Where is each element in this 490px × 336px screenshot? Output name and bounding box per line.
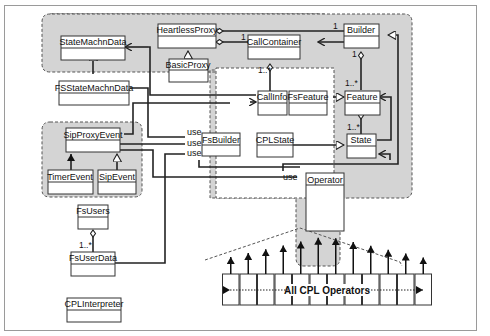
class-name: TimerEvent	[47, 172, 93, 182]
class-name: HeartlessProxy	[156, 25, 218, 35]
uml-class-diagram: StateMachnData HeartlessProxy BasicProxy…	[0, 0, 490, 336]
multiplicity-label: 1..*	[258, 65, 271, 75]
class-sip-event[interactable]: SipEvent	[98, 170, 136, 194]
class-sip-proxy-event[interactable]: SipProxyEvent	[63, 128, 123, 152]
class-fs-feature[interactable]: FsFeature	[287, 91, 328, 115]
operator-instance-box	[380, 274, 397, 305]
multiplicity-label: 1..*	[79, 240, 92, 250]
class-name: FsFeature	[287, 92, 328, 102]
class-basic-proxy[interactable]: BasicProxy	[165, 59, 211, 82]
class-name: FsUsers	[76, 206, 110, 216]
multiplicity-label: 1..*	[347, 122, 360, 132]
class-name: CallInfo	[257, 92, 288, 102]
class-timer-event[interactable]: TimerEvent	[47, 170, 93, 194]
operator-instance-box	[258, 274, 275, 305]
class-name: State	[350, 135, 371, 145]
class-operator[interactable]: Operator	[306, 173, 344, 231]
class-fs-user-data[interactable]: FsUserData	[69, 252, 117, 276]
class-name: BasicProxy	[165, 60, 211, 70]
class-cpl-interpreter[interactable]: CPLInterpreter	[64, 298, 123, 322]
class-name: SipEvent	[99, 172, 136, 182]
class-name: StateMachnData	[59, 37, 126, 47]
class-name: SipProxyEvent	[63, 130, 123, 140]
multiplicity-label: 1..*	[345, 78, 358, 88]
class-name: FsUserData	[69, 253, 117, 263]
class-fs-users[interactable]: FsUsers	[76, 205, 110, 229]
use-label: use	[283, 172, 298, 182]
all-cpl-operators-label: All CPL Operators	[284, 285, 370, 296]
class-builder[interactable]: Builder	[344, 24, 379, 48]
use-label: use	[187, 127, 202, 137]
multiplicity-label: 1	[241, 32, 246, 42]
class-name: FsBuilder	[202, 135, 240, 145]
class-call-container[interactable]: CallContainer	[247, 35, 302, 59]
operator-instance-box	[398, 274, 415, 305]
class-name: CPLInterpreter	[64, 299, 123, 309]
class-name: Operator	[307, 175, 343, 185]
class-state[interactable]: State	[347, 134, 376, 158]
multiplicity-label: 1	[333, 21, 338, 31]
class-name: Builder	[347, 25, 375, 35]
class-name: Feature	[346, 92, 377, 102]
class-fs-builder[interactable]: FsBuilder	[202, 133, 240, 156]
class-heartless-proxy[interactable]: HeartlessProxy	[156, 24, 218, 48]
class-feature[interactable]: Feature	[345, 91, 380, 115]
class-call-info[interactable]: CallInfo	[257, 91, 288, 115]
class-name: FSStateMachnData	[55, 83, 134, 93]
class-state-machn-data[interactable]: StateMachnData	[59, 36, 126, 60]
use-label: use	[187, 148, 202, 158]
multiplicity-label: 1	[352, 49, 357, 59]
class-fs-state-machn-data[interactable]: FSStateMachnData	[55, 81, 134, 105]
use-label: use	[187, 138, 202, 148]
class-cpl-state[interactable]: CPLState	[256, 133, 295, 157]
class-name: CPLState	[256, 135, 295, 145]
class-name: CallContainer	[247, 37, 302, 47]
